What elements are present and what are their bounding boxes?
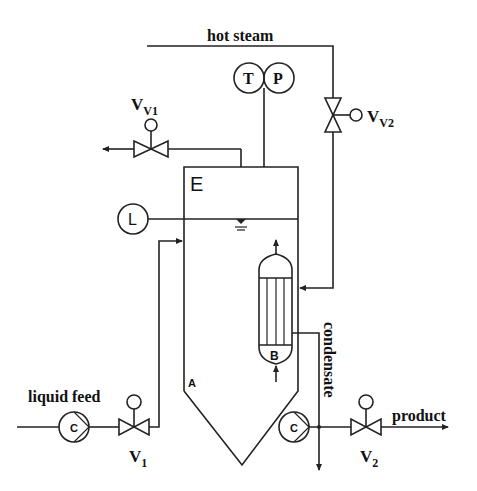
actuator-icon	[350, 109, 362, 121]
hot-steam-label: hot steam	[207, 27, 274, 44]
feed-pump-label: C	[70, 422, 78, 434]
pressure-label: P	[273, 70, 283, 87]
valve-v1-label: V1	[129, 447, 147, 470]
valve-v2-label: V2	[360, 447, 378, 470]
temperature-label: T	[243, 70, 254, 87]
product-label: product	[392, 407, 447, 425]
valve-vv1	[103, 119, 241, 167]
actuator-icon	[359, 395, 373, 409]
level-label: L	[128, 211, 137, 228]
liquid-feed-line	[17, 241, 182, 442]
process-diagram: hot steam VV2 T P VV1 E A L	[0, 0, 477, 491]
valve-vv1-label: VV1	[131, 95, 158, 118]
liquid-feed-label: liquid feed	[28, 388, 101, 406]
valve-vv2-label: VV2	[367, 107, 394, 130]
actuator-icon	[145, 119, 157, 131]
heat-exchanger-label: B	[270, 349, 279, 363]
product-pump-label: C	[290, 422, 298, 434]
valve-vv2	[325, 98, 362, 132]
heat-exchanger	[259, 240, 319, 470]
level-indicator	[118, 204, 298, 234]
liquid-level-icon	[236, 219, 246, 224]
condensate-label: condensate	[321, 322, 338, 398]
evaporator-label: E	[190, 173, 203, 195]
vessel-label: A	[188, 377, 196, 389]
actuator-icon	[127, 395, 141, 409]
